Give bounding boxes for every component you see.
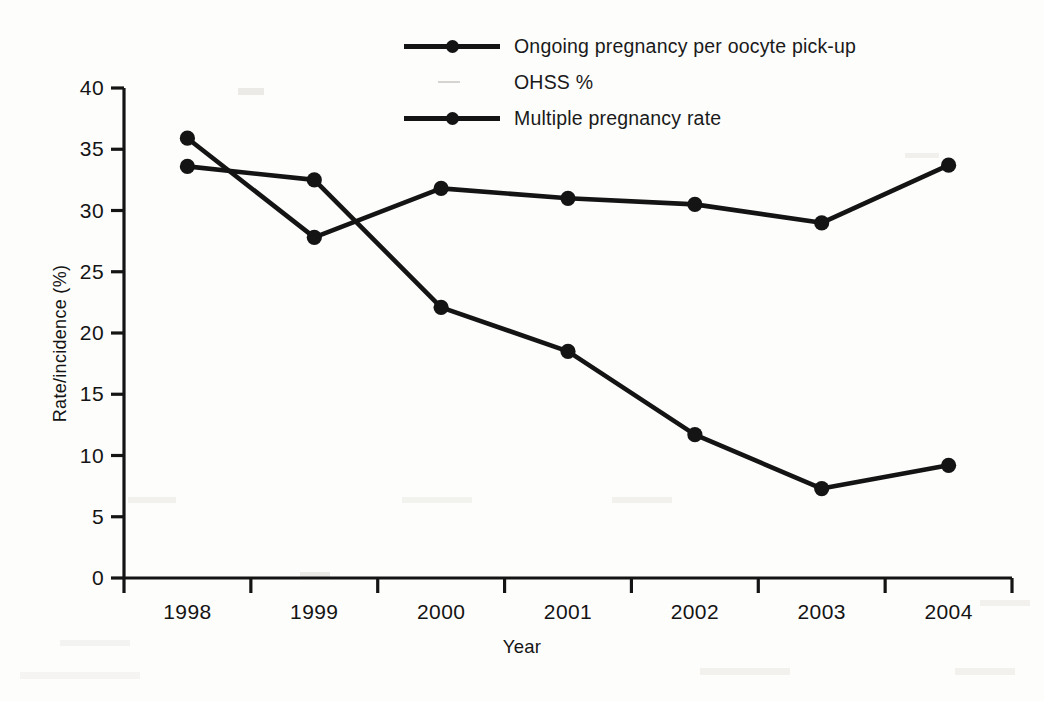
data-point <box>434 181 449 196</box>
data-point <box>560 344 575 359</box>
y-tick-label: 0 <box>48 566 104 590</box>
data-point <box>180 131 195 146</box>
x-tick-label: 2002 <box>640 600 750 624</box>
data-point <box>941 158 956 173</box>
chart-page: Ongoing pregnancy per oocyte pick-up OHS… <box>0 0 1044 701</box>
axis-layer <box>111 88 1012 593</box>
y-axis-title: Rate/incidence (%) <box>50 214 71 474</box>
data-point <box>814 481 829 496</box>
data-point <box>307 230 322 245</box>
data-point <box>814 215 829 230</box>
x-tick-label: 1999 <box>259 600 369 624</box>
y-tick-label: 5 <box>48 505 104 529</box>
x-tick-label: 2004 <box>894 600 1004 624</box>
y-tick-label: 40 <box>48 76 104 100</box>
series-1 <box>180 131 956 245</box>
data-point <box>560 191 575 206</box>
series-line <box>187 138 948 237</box>
x-axis-title: Year <box>452 636 592 658</box>
data-point <box>307 172 322 187</box>
series-layer <box>180 131 956 497</box>
x-tick-label: 2003 <box>767 600 877 624</box>
data-point <box>687 197 702 212</box>
data-point <box>180 159 195 174</box>
data-point <box>687 427 702 442</box>
y-tick-label: 35 <box>48 137 104 161</box>
x-tick-label: 2001 <box>513 600 623 624</box>
data-point <box>434 300 449 315</box>
plot-area: 0510152025303540 19981999200020012002200… <box>0 0 1044 701</box>
chart-svg <box>0 0 1044 701</box>
x-tick-label: 1998 <box>132 600 242 624</box>
data-point <box>941 458 956 473</box>
x-tick-label: 2000 <box>386 600 496 624</box>
series-3 <box>180 159 956 496</box>
